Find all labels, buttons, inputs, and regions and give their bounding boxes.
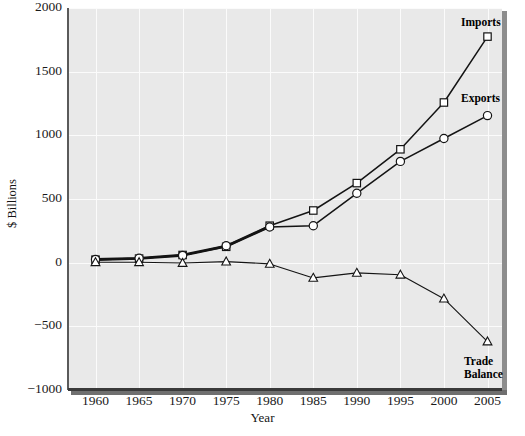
y-axis-title: $ Billions — [5, 164, 20, 244]
gridline-horizontal — [68, 199, 502, 200]
gridline-vertical — [444, 8, 445, 390]
plot-frame-shadow-right — [502, 11, 507, 393]
gridline-vertical — [183, 8, 184, 390]
gridline-vertical — [357, 8, 358, 390]
y-tick-label: −500 — [0, 317, 62, 333]
gridline-vertical — [226, 8, 227, 390]
gridline-vertical — [400, 8, 401, 390]
x-tick-label: 2005 — [462, 393, 514, 409]
series-label-trade-balance: Trade Balance — [464, 355, 503, 380]
x-axis-line — [68, 388, 502, 391]
y-tick-label: 1000 — [0, 126, 62, 142]
trade-chart: 2000150010005000−500−1000 19601965197019… — [0, 0, 525, 436]
gridline-horizontal — [68, 326, 502, 327]
gridline-vertical — [139, 8, 140, 390]
gridline-vertical — [313, 8, 314, 390]
series-label-imports: Imports — [461, 16, 501, 29]
gridline-vertical — [488, 8, 489, 390]
gridline-horizontal — [68, 263, 502, 264]
series-label-exports: Exports — [461, 92, 500, 105]
gridline-horizontal — [68, 8, 502, 9]
gridline-horizontal — [68, 135, 502, 136]
gridline-vertical — [270, 8, 271, 390]
series-label-trade-balance-line1: Trade — [464, 355, 503, 368]
series-label-trade-balance-line2: Balance — [464, 368, 503, 381]
y-tick-label: 2000 — [0, 0, 62, 15]
gridline-horizontal — [68, 72, 502, 73]
y-tick-label: −1000 — [0, 381, 62, 397]
y-tick-label: 0 — [0, 254, 62, 270]
y-tick-label: 1500 — [0, 63, 62, 79]
x-axis-title: Year — [0, 410, 525, 426]
y-axis-line — [67, 8, 69, 390]
gridline-vertical — [96, 8, 97, 390]
